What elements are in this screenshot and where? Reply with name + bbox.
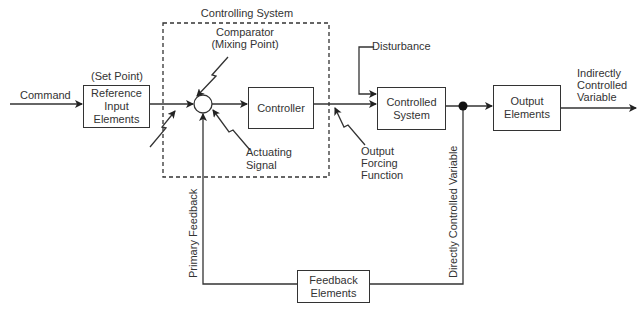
directly-controlled-variable-label: Directly Controlled Variable [447,146,460,278]
block-line: Controlled [386,96,436,109]
block-line: Elements [311,287,357,300]
primary-feedback-label: Primary Feedback [187,189,200,278]
block-line: Input [104,100,128,113]
disturbance-label: Disturbance [372,40,431,53]
pickoff-point-dot [459,102,468,111]
block-line: System [393,109,430,122]
block-line: Elements [504,108,550,121]
output-elements-block: Output Elements [493,85,561,131]
actuating-signal-label-2: Signal [246,159,277,172]
output-forcing-label-3: Function [361,169,403,182]
controlling-system-title: Controlling System [173,7,321,20]
command-label: Command [20,89,71,102]
block-line: Feedback [309,274,357,287]
mixing-point-label: (Mixing Point) [200,38,290,51]
block-line: Reference [91,87,142,100]
comparator-circle [194,95,212,113]
diagram-wires [0,0,643,309]
block-line: Elements [94,113,140,126]
set-point-label: (Set Point) [91,70,143,83]
reference-input-elements-block: Reference Input Elements [83,85,150,128]
controller-block: Controller [248,87,314,129]
block-label: Controller [257,102,305,115]
actuating-signal-label-1: Actuating [246,146,292,159]
block-line: Output [510,95,543,108]
indirect-variable-label-3: Variable [577,91,617,104]
feedback-elements-block: Feedback Elements [297,270,370,303]
controlled-system-block: Controlled System [377,87,446,130]
